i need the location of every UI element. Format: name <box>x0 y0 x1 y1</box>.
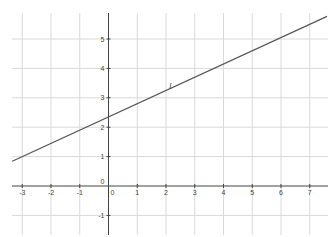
x-tick-label: 4 <box>222 189 226 196</box>
x-tick-label: 6 <box>279 189 283 196</box>
x-tick-label: 1 <box>135 189 139 196</box>
x-tick-label: 3 <box>193 189 197 196</box>
y-tick-label: 4 <box>101 65 105 72</box>
x-tick-label: -2 <box>48 189 54 196</box>
x-tick-label: -3 <box>19 189 25 196</box>
x-tick-label: 0 <box>111 189 115 196</box>
y-tick-label: 1 <box>101 153 105 160</box>
y-tick-label: 0 <box>101 178 105 185</box>
x-tick-label: 5 <box>250 189 254 196</box>
y-tick-label: 2 <box>101 124 105 131</box>
y-tick-label: -1 <box>98 212 104 219</box>
annotations: l <box>169 81 172 91</box>
x-tick-label: 7 <box>308 189 312 196</box>
grid-lines <box>12 13 328 235</box>
coordinate-plane: -3-2-101234567-1012345 l <box>0 0 335 237</box>
y-tick-label: 3 <box>101 94 105 101</box>
x-tick-label: 2 <box>164 189 168 196</box>
y-tick-label: 5 <box>101 36 105 43</box>
x-tick-label: -1 <box>77 189 83 196</box>
line-label: l <box>169 81 172 91</box>
